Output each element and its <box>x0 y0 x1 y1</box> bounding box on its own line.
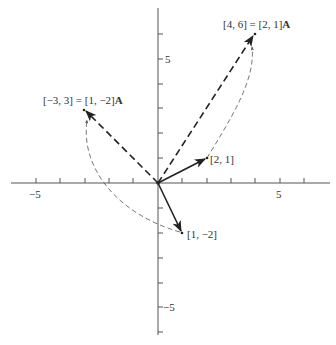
y-tick-label-neg5: −5 <box>163 301 175 313</box>
origin-point <box>156 181 160 185</box>
label-av1: [4, 6] = [2, 1]A <box>223 18 290 30</box>
point-2-1 <box>206 157 209 160</box>
label-av2: [−3, 3] = [1, −2]A <box>43 94 123 106</box>
label-av1-text: [4, 6] = [2, 1] <box>223 18 282 30</box>
vector-av1-4-6 <box>158 36 253 183</box>
arc-v1-to-av1 <box>207 47 252 158</box>
label-av2-text: [−3, 3] = [1, −2] <box>43 94 115 106</box>
label-v2: [1, −2] <box>187 228 217 240</box>
label-v1: [2, 1] <box>210 153 234 165</box>
x-tick-label-neg5: −5 <box>29 188 41 200</box>
linear-transformation-diagram: −5 5 5 −5 [2, 1] [1, −2] [4, 6] = [2, 1]… <box>0 0 336 345</box>
y-tick-label-5: 5 <box>165 53 171 65</box>
x-tick-label-5: 5 <box>276 188 282 200</box>
matrix-a-symbol: A <box>282 18 290 30</box>
point-neg3-3 <box>83 109 86 112</box>
x-axis-ticks <box>36 178 304 183</box>
diagram-canvas: −5 5 5 −5 [2, 1] [1, −2] [4, 6] = [2, 1]… <box>0 0 336 345</box>
vector-v2-1-neg2 <box>158 183 181 231</box>
matrix-a-symbol: A <box>115 94 123 106</box>
point-1-neg2 <box>181 232 184 235</box>
arc-v2-to-av2 <box>86 120 180 232</box>
point-4-6 <box>254 33 257 36</box>
